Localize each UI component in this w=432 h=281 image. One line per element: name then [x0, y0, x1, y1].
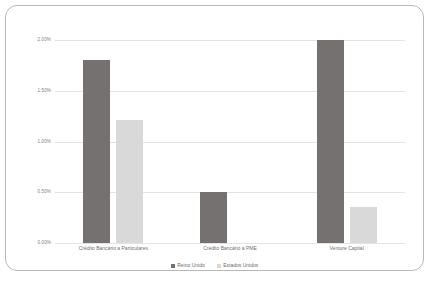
legend-swatch-icon	[217, 264, 221, 268]
bar	[200, 192, 227, 243]
chart-card: 2.00%1.50%1.00%0.50%0.00% Crédito Bancár…	[5, 5, 424, 271]
x-axis-category-label: Crédito Bancário a Particulares	[55, 246, 172, 251]
legend-item[interactable]: Estados Unidos	[217, 263, 259, 268]
bar	[116, 120, 143, 243]
chart-legend: Reino UnidoEstados Unidos	[6, 263, 423, 268]
y-axis: 2.00%1.50%1.00%0.50%0.00%	[6, 40, 51, 243]
bar	[350, 207, 377, 243]
y-axis-tick-label: 2.00%	[11, 38, 51, 43]
x-axis-category-label: Crédito Bancário a PME	[172, 246, 289, 251]
y-axis-tick-label: 1.00%	[11, 139, 51, 144]
legend-label: Estados Unidos	[223, 263, 258, 268]
plot-area	[55, 40, 405, 243]
y-axis-tick-label: 1.50%	[11, 88, 51, 93]
legend-item[interactable]: Reino Unido	[171, 263, 205, 268]
x-axis-category-label: Venture Capital	[288, 246, 405, 251]
gridline	[55, 40, 405, 41]
y-axis-tick-label: 0.00%	[11, 241, 51, 246]
legend-label: Reino Unido	[177, 263, 205, 268]
bar	[317, 40, 344, 243]
gridline	[55, 243, 405, 244]
y-axis-tick-label: 0.50%	[11, 190, 51, 195]
bar	[83, 60, 110, 243]
x-axis-category-labels: Crédito Bancário a ParticularesCrédito B…	[55, 246, 405, 258]
legend-swatch-icon	[171, 264, 175, 268]
